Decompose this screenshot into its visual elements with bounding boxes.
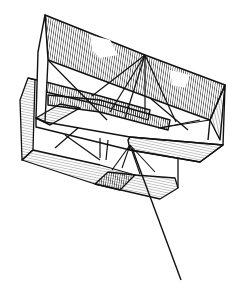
kite-illustration: box kite with string xyxy=(0,0,240,289)
kite-string xyxy=(132,148,181,280)
